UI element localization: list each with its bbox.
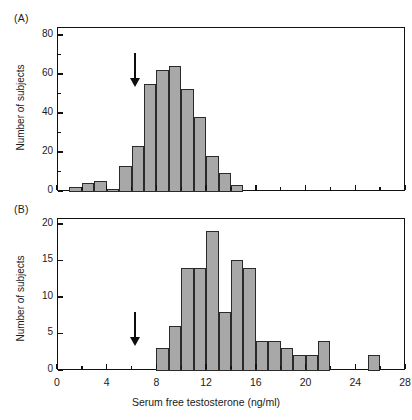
x-axis-minor-tick — [181, 366, 182, 369]
histogram-bar — [107, 189, 119, 192]
y-axis-tick-label: 0 — [23, 363, 53, 374]
x-axis-minor-tick — [131, 187, 132, 190]
y-axis-tick-label: 20 — [23, 217, 53, 228]
histogram-bar — [194, 117, 206, 192]
y-axis-tick — [58, 260, 63, 261]
x-axis-minor-tick — [81, 366, 82, 369]
histogram-bar — [132, 146, 144, 192]
y-axis-tick — [58, 112, 63, 113]
arrow-head-icon — [130, 78, 140, 87]
y-axis-tick-label: 5 — [23, 326, 53, 337]
y-axis-minor-tick — [58, 93, 61, 94]
arrow-marker — [129, 312, 141, 346]
x-axis-tick-label: 4 — [91, 376, 123, 388]
x-axis-minor-tick — [330, 187, 331, 190]
x-axis-tick — [156, 364, 157, 369]
arrow-shaft-icon — [134, 312, 136, 338]
x-axis-tick — [205, 185, 206, 190]
panel-a-label: (A) — [14, 12, 29, 24]
x-axis-tick-label: 12 — [190, 376, 222, 388]
y-axis-tick — [58, 333, 63, 334]
arrow-head-icon — [130, 337, 140, 346]
histogram-bar — [69, 187, 81, 192]
histogram-bar — [119, 166, 131, 192]
y-axis-tick — [58, 296, 63, 297]
histogram-bar — [318, 341, 330, 371]
histogram-bar — [231, 185, 243, 192]
histogram-bar — [181, 268, 193, 371]
x-axis-tick — [404, 185, 405, 190]
x-axis-tick-label: 0 — [41, 376, 73, 388]
histogram-bar — [281, 348, 293, 371]
x-axis-tick-label: 16 — [240, 376, 272, 388]
x-axis-tick — [56, 185, 57, 190]
y-axis-tick-label: 0 — [23, 184, 53, 195]
histogram-bar — [144, 84, 156, 192]
x-axis-tick — [404, 364, 405, 369]
x-axis-tick — [106, 185, 107, 190]
y-axis-tick-label: 10 — [23, 290, 53, 301]
x-axis-minor-tick — [379, 366, 380, 369]
histogram-bar — [156, 348, 168, 371]
y-axis-tick-label: 20 — [23, 145, 53, 156]
x-axis-minor-tick — [81, 187, 82, 190]
y-axis-minor-tick — [58, 171, 61, 172]
arrow-shaft-icon — [134, 53, 136, 79]
x-axis-minor-tick — [330, 366, 331, 369]
histogram-bar — [243, 268, 255, 371]
x-axis-minor-tick — [230, 366, 231, 369]
histogram-bar — [231, 260, 243, 371]
x-axis-minor-tick — [379, 187, 380, 190]
y-axis-tick — [58, 34, 63, 35]
x-axis-tick-label: 24 — [339, 376, 371, 388]
arrow-marker — [129, 53, 141, 87]
panel-b-label: (B) — [14, 203, 29, 215]
x-axis-label: Serum free testosterone (ng/ml) — [0, 396, 412, 408]
histogram-bar — [293, 355, 305, 371]
histogram-bar — [94, 181, 106, 192]
histogram-bar — [169, 66, 181, 192]
x-axis-tick — [156, 185, 157, 190]
histogram-bar — [219, 312, 231, 371]
histogram-bar — [181, 89, 193, 192]
x-axis-tick — [106, 364, 107, 369]
histogram-bar — [219, 173, 231, 192]
x-axis-tick-label: 8 — [140, 376, 172, 388]
y-axis-tick — [58, 73, 63, 74]
y-axis-tick-label: 40 — [23, 106, 53, 117]
histogram-bar — [256, 341, 268, 371]
y-axis-tick — [58, 369, 63, 370]
x-axis-tick — [56, 364, 57, 369]
x-axis-minor-tick — [181, 187, 182, 190]
x-axis-tick-label: 20 — [290, 376, 322, 388]
histogram-bar — [82, 183, 94, 192]
y-axis-tick-label: 60 — [23, 67, 53, 78]
y-axis-minor-tick — [58, 132, 61, 133]
x-axis-tick-label: 28 — [389, 376, 412, 388]
histogram-bar — [206, 156, 218, 192]
histogram-bar — [268, 341, 280, 371]
x-axis-tick — [305, 185, 306, 190]
x-axis-tick — [255, 364, 256, 369]
x-axis-tick — [205, 364, 206, 369]
x-axis-minor-tick — [280, 366, 281, 369]
x-axis-minor-tick — [131, 366, 132, 369]
y-axis-tick — [58, 190, 63, 191]
histogram-bar — [194, 268, 206, 371]
y-axis-tick — [58, 223, 63, 224]
x-axis-minor-tick — [280, 187, 281, 190]
histogram-bar — [306, 355, 318, 371]
x-axis-tick — [305, 364, 306, 369]
histogram-bar — [368, 355, 380, 371]
histogram-bar — [169, 326, 181, 371]
y-axis-tick — [58, 151, 63, 152]
histogram-bar — [156, 70, 168, 192]
y-axis-tick-label: 80 — [23, 28, 53, 39]
figure-container: (A) (B) Number of subjects Number of sub… — [0, 0, 412, 420]
histogram-bar — [206, 231, 218, 371]
x-axis-tick — [355, 364, 356, 369]
x-axis-minor-tick — [230, 187, 231, 190]
panel-a-plot-area — [57, 27, 405, 191]
x-axis-tick — [255, 185, 256, 190]
x-axis-tick — [355, 185, 356, 190]
